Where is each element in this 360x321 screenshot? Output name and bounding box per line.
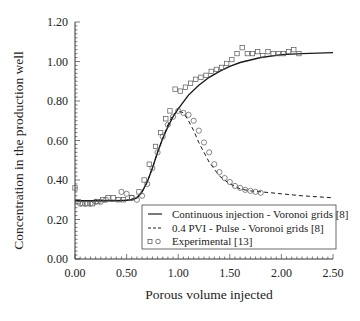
data-point-circle <box>186 112 191 117</box>
data-point-square <box>204 73 208 77</box>
data-point-circle <box>119 189 124 194</box>
legend-label-experimental: Experimental [13] <box>172 235 252 247</box>
data-point-square <box>292 47 296 51</box>
legend-label-pulse: 0.4 PVI - Pulse - Voronoi grids [8] <box>172 222 324 234</box>
series-layer <box>73 45 333 206</box>
axes: 0.000.200.400.600.801.001.200.000.501.00… <box>11 15 344 302</box>
x-tick-label: 0.00 <box>65 266 86 280</box>
data-point-circle <box>124 191 129 196</box>
legend-label-continuous: Continuous injection - Voronoi grids [8] <box>172 208 349 220</box>
y-tick-label: 1.20 <box>47 15 68 29</box>
y-tick-label: 0.00 <box>47 252 68 266</box>
y-tick-label: 0.40 <box>47 173 68 187</box>
data-point-square <box>178 89 182 93</box>
y-axis-title: Concentration in the production well <box>11 51 26 250</box>
data-point-square <box>188 81 192 85</box>
data-point-square <box>230 57 234 61</box>
y-tick-label: 0.60 <box>47 134 68 148</box>
x-tick-label: 1.50 <box>219 266 240 280</box>
data-point-square <box>153 144 157 148</box>
data-point-square <box>266 49 270 53</box>
data-point-square <box>245 51 249 55</box>
data-point-circle <box>196 128 201 133</box>
data-point-circle <box>207 150 212 155</box>
data-point-circle <box>191 118 196 123</box>
x-tick-label: 0.50 <box>116 266 137 280</box>
y-tick-label: 1.00 <box>47 55 68 69</box>
data-point-circle <box>139 193 144 198</box>
data-point-square <box>183 85 187 89</box>
data-point-circle <box>201 140 206 145</box>
data-point-square <box>255 49 259 53</box>
data-point-circle <box>258 190 263 195</box>
data-point-square <box>250 51 254 55</box>
legend: Continuous injection - Voronoi grids [8]… <box>142 205 349 249</box>
data-point-circle <box>212 162 217 167</box>
data-point-square <box>173 87 177 91</box>
data-point-square <box>111 196 115 200</box>
data-point-circle <box>217 170 222 175</box>
chart: 0.000.200.400.600.801.001.200.000.501.00… <box>0 0 360 321</box>
data-point-square <box>235 51 239 55</box>
y-tick-label: 0.80 <box>47 94 68 108</box>
data-point-square <box>225 61 229 65</box>
series-line-pulse <box>75 111 333 201</box>
data-point-square <box>209 69 213 73</box>
data-point-square <box>214 67 218 71</box>
data-point-circle <box>181 110 186 115</box>
data-point-square <box>194 77 198 81</box>
x-axis-title: Porous volume injected <box>145 287 273 302</box>
data-point-square <box>286 49 290 53</box>
y-tick-label: 0.20 <box>47 213 68 227</box>
data-point-circle <box>222 175 227 180</box>
data-point-square <box>199 75 203 79</box>
x-tick-label: 2.00 <box>271 266 292 280</box>
data-point-square <box>240 45 244 49</box>
data-point-square <box>164 117 168 121</box>
x-tick-label: 1.00 <box>168 266 189 280</box>
x-tick-label: 2.50 <box>323 266 344 280</box>
data-point-square <box>168 109 172 113</box>
